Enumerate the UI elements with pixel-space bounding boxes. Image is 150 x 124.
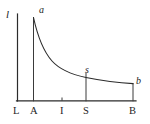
figure-svg xyxy=(0,0,150,124)
decay-curve xyxy=(34,18,134,84)
figure-container: l a s b L A I S B xyxy=(0,0,150,124)
x-label-a: A xyxy=(30,106,38,117)
point-label-a: a xyxy=(39,5,44,15)
x-label-l: L xyxy=(13,106,20,117)
point-label-s: s xyxy=(85,65,89,75)
x-label-b: B xyxy=(129,106,136,117)
y-axis-label: l xyxy=(6,9,9,20)
x-label-s: S xyxy=(83,106,89,117)
x-label-i: I xyxy=(60,106,64,117)
point-label-b: b xyxy=(136,76,141,86)
